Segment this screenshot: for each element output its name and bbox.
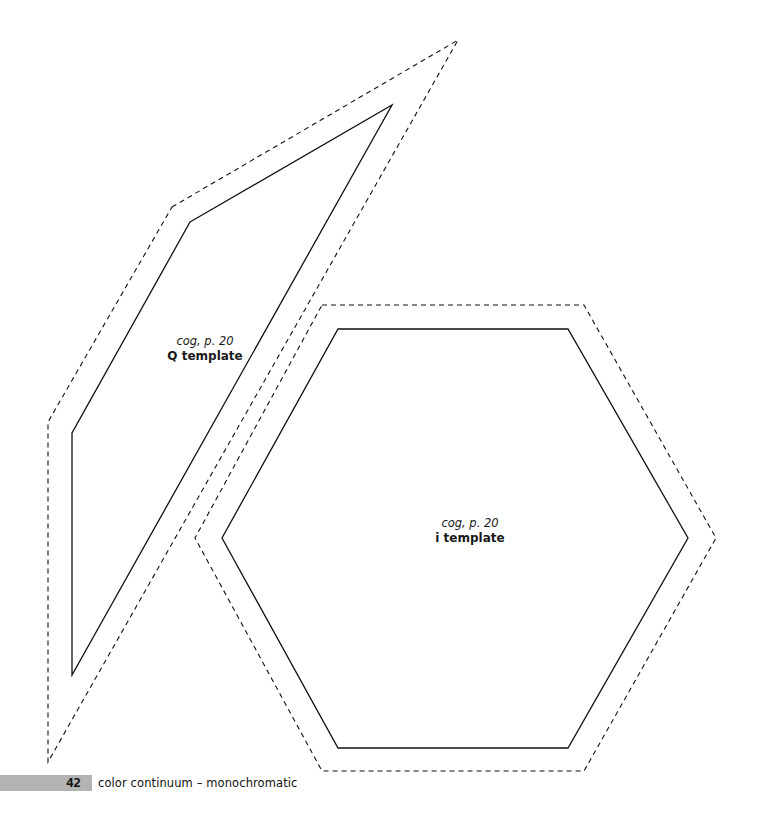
page-number: 42 bbox=[66, 775, 81, 791]
q-template-outline bbox=[72, 105, 392, 675]
page-title: color continuum – monochromatic bbox=[98, 775, 298, 791]
q-template-label: cog, p. 20 Q template bbox=[150, 334, 260, 364]
q-template-name: Q template bbox=[150, 349, 260, 364]
i-template-name: i template bbox=[400, 531, 540, 546]
i-template-reference: cog, p. 20 bbox=[400, 516, 540, 531]
page-footer: 42 color continuum – monochromatic bbox=[0, 775, 762, 791]
q-template-cut-line bbox=[48, 40, 458, 762]
q-template-shape bbox=[48, 40, 458, 762]
i-template-label: cog, p. 20 i template bbox=[400, 516, 540, 546]
template-artwork bbox=[0, 0, 762, 821]
q-template-reference: cog, p. 20 bbox=[150, 334, 260, 349]
